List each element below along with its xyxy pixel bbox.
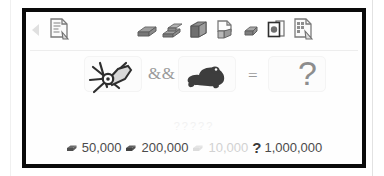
question-icon: ?: [252, 140, 261, 155]
cost-value: 200,000: [141, 141, 188, 154]
right-guide-line: [372, 0, 373, 176]
ghost-result-name: ?????: [26, 120, 362, 132]
ore-chunk-b-icon[interactable]: [160, 17, 186, 43]
result-slot[interactable]: [268, 56, 326, 92]
blueprint-icon[interactable]: [290, 17, 316, 43]
crafting-panel: && = ? ?????: [26, 12, 362, 164]
cost-value: 1,000,000: [264, 141, 322, 154]
cost-item: 50,000: [66, 141, 122, 154]
document-tool-icon[interactable]: [46, 17, 72, 43]
ore-block-icon[interactable]: [186, 17, 212, 43]
unknown-result-glyph: ?: [298, 56, 317, 90]
cost-item: 200,000: [125, 141, 188, 154]
cost-item: ? 1,000,000: [252, 140, 322, 155]
window-frame: && = ? ?????: [22, 8, 366, 168]
operator-equals: =: [248, 66, 258, 86]
cost-value: 50,000: [82, 141, 122, 154]
framed-gem-icon[interactable]: [264, 17, 290, 43]
triangle-left-icon[interactable]: [32, 24, 39, 36]
toad-sprite[interactable]: [184, 60, 230, 94]
page-corner-icon[interactable]: [212, 17, 238, 43]
cost-value: 10,000: [208, 141, 248, 154]
ore-chunk-icon: [192, 141, 205, 154]
ore-chunk-icon: [125, 141, 138, 154]
screenshot-root: && = ? ?????: [0, 0, 384, 176]
left-guide-line: [10, 0, 11, 176]
operator-and: &&: [148, 64, 175, 84]
cost-row: 50,000 200,000: [26, 140, 362, 155]
ore-chunk-a-icon[interactable]: [134, 17, 160, 43]
ore-chunk-icon: [66, 141, 79, 154]
item-toolbar: [26, 12, 362, 52]
cost-item: 10,000: [192, 141, 248, 154]
angle-grinder-sprite[interactable]: [86, 54, 138, 104]
small-rock-icon[interactable]: [238, 17, 264, 43]
toolbar-separator: [30, 50, 358, 51]
